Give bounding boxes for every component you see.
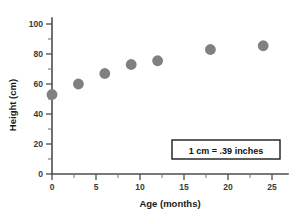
x-tick-label-25: 25 [267,182,277,192]
data-point [126,59,137,70]
y-tick-label-20: 20 [34,139,44,149]
data-point [99,68,110,79]
chart-figure: 0 20 40 60 80 100 0 5 10 15 20 25 1 cm [0,0,299,212]
y-tick-label-80: 80 [34,49,44,59]
y-tick-label-100: 100 [29,19,43,29]
y-tick-label-40: 40 [34,109,44,119]
x-tick-label-20: 20 [223,182,233,192]
annotation-box: 1 cm = .39 inches [172,140,280,159]
plot-background [0,0,299,212]
x-tick-label-10: 10 [135,182,145,192]
scatter-plot: 0 20 40 60 80 100 0 5 10 15 20 25 1 cm [0,0,299,212]
data-point [47,89,58,100]
data-point [205,44,216,55]
data-point [258,40,269,51]
y-tick-label-0: 0 [38,169,43,179]
x-tick-label-5: 5 [94,182,99,192]
x-tick-label-15: 15 [179,182,189,192]
annotation-label: 1 cm = .39 inches [189,146,263,156]
y-tick-label-60: 60 [34,79,44,89]
x-tick-label-0: 0 [50,182,55,192]
x-axis-title-label: Age (months) [139,198,200,209]
y-axis-title-label: Height (cm) [7,79,18,131]
y-axis-title: Height (cm) [7,79,18,131]
data-point [152,55,163,66]
data-point [73,79,84,90]
x-axis-title: Age (months) [139,198,200,209]
